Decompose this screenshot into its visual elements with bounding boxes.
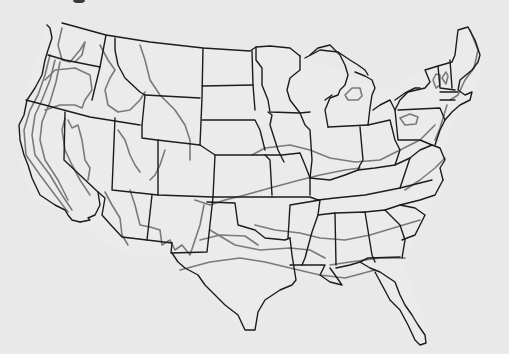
scan-artifact bbox=[73, 0, 85, 3]
map-canvas bbox=[0, 0, 509, 354]
us-outline-map bbox=[0, 0, 509, 354]
